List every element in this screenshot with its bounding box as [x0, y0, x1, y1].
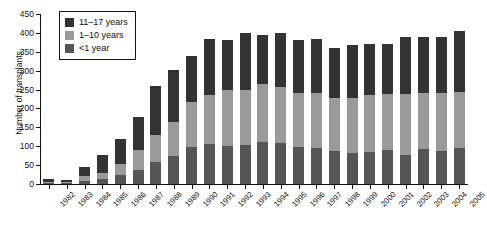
x-tick-label-1985: 1985 [111, 190, 130, 209]
bar-segment-1998-s2 [329, 48, 340, 98]
bar-segment-2000-s1 [364, 95, 375, 152]
bar-segment-2004-s1 [436, 93, 447, 150]
x-tick-label-1991: 1991 [218, 190, 237, 209]
bar-segment-1985-s1 [97, 173, 108, 179]
x-tick-label-1998: 1998 [343, 190, 362, 209]
x-tick-1990 [192, 185, 193, 189]
bar-segment-1991-s2 [204, 39, 215, 96]
legend-swatch-icon-11-17 [65, 18, 74, 27]
bar-segment-2005-s2 [454, 31, 465, 92]
bar-1984 [79, 167, 90, 184]
x-tick-label-1984: 1984 [94, 190, 113, 209]
bar-segment-1991-s0 [204, 144, 215, 184]
legend-item-under-1: <1 year [65, 42, 128, 55]
legend-item-11-17: 11–17 years [65, 16, 128, 29]
bar-1990 [186, 56, 197, 184]
x-axis-line [40, 184, 468, 185]
y-tick-label-150: 150 [20, 123, 34, 132]
x-tick-2000 [370, 185, 371, 189]
x-tick-2004 [441, 185, 442, 189]
y-tick-label-0: 0 [29, 180, 34, 189]
x-tick-2003 [423, 185, 424, 189]
x-tick-label-1993: 1993 [254, 190, 273, 209]
bar-segment-1986-s0 [115, 175, 126, 184]
bar-segment-1992-s0 [222, 146, 233, 184]
bar-segment-1989-s0 [168, 156, 179, 184]
bar-segment-1983-s1 [61, 182, 72, 183]
y-tick-label-250: 250 [20, 85, 34, 94]
x-tick-1996 [299, 185, 300, 189]
x-tick-label-1995: 1995 [290, 190, 309, 209]
bar-segment-1985-s0 [97, 179, 108, 184]
bar-2002 [400, 37, 411, 184]
bar-segment-1989-s2 [168, 70, 179, 122]
bar-1983 [61, 180, 72, 184]
y-tick-150 [36, 127, 40, 128]
bar-segment-1990-s0 [186, 147, 197, 184]
x-tick-label-1990: 1990 [201, 190, 220, 209]
bar-1985 [97, 155, 108, 184]
bar-segment-1986-s2 [115, 139, 126, 165]
bar-segment-1995-s1 [275, 87, 286, 144]
bar-segment-1987-s1 [133, 150, 144, 170]
legend-label-1-10: 1–10 years [79, 31, 124, 40]
x-tick-1992 [227, 185, 228, 189]
x-tick-2001 [388, 185, 389, 189]
x-tick-label-1994: 1994 [272, 190, 291, 209]
bar-segment-2003-s1 [418, 93, 429, 150]
bar-segment-1990-s1 [186, 102, 197, 147]
x-tick-2002 [406, 185, 407, 189]
bar-segment-1999-s1 [347, 98, 358, 153]
bar-segment-1994-s0 [257, 142, 268, 184]
bar-segment-1998-s0 [329, 151, 340, 184]
y-tick-label-350: 350 [20, 48, 34, 57]
bar-segment-2004-s0 [436, 151, 447, 184]
bar-segment-2002-s2 [400, 37, 411, 94]
x-tick-1999 [352, 185, 353, 189]
x-tick-2005 [459, 185, 460, 189]
x-tick-1983 [67, 185, 68, 189]
x-tick-1984 [85, 185, 86, 189]
bar-segment-2001-s1 [382, 94, 393, 150]
bar-segment-1985-s2 [97, 155, 108, 173]
bar-2001 [382, 44, 393, 184]
y-tick-50 [36, 165, 40, 166]
x-tick-1986 [120, 185, 121, 189]
x-tick-label-2002: 2002 [415, 190, 434, 209]
bar-segment-1996-s2 [293, 40, 304, 94]
legend-item-1-10: 1–10 years [65, 29, 128, 42]
bar-segment-1984-s1 [79, 176, 90, 181]
bar-segment-1997-s1 [311, 93, 322, 148]
bar-segment-2000-s2 [364, 44, 375, 95]
bar-2003 [418, 37, 429, 184]
bar-segment-1989-s1 [168, 122, 179, 156]
bar-1995 [275, 33, 286, 184]
bar-segment-1990-s2 [186, 56, 197, 102]
y-tick-200 [36, 108, 40, 109]
x-tick-1998 [334, 185, 335, 189]
x-tick-label-2005: 2005 [468, 190, 487, 209]
bar-segment-2001-s2 [382, 44, 393, 94]
x-tick-1991 [209, 185, 210, 189]
bar-segment-1992-s2 [222, 40, 233, 90]
x-tick-label-1988: 1988 [165, 190, 184, 209]
bar-segment-1999-s2 [347, 45, 358, 98]
bar-segment-2002-s1 [400, 94, 411, 154]
x-tick-1987 [138, 185, 139, 189]
x-tick-label-2001: 2001 [397, 190, 416, 209]
y-axis-line [40, 14, 41, 185]
bar-segment-2003-s2 [418, 37, 429, 93]
bar-segment-1995-s0 [275, 143, 286, 184]
bar-segment-1993-s1 [240, 90, 251, 146]
bar-segment-1996-s0 [293, 147, 304, 184]
bar-1998 [329, 48, 340, 184]
bar-segment-1986-s1 [115, 164, 126, 175]
x-tick-label-2004: 2004 [450, 190, 469, 209]
bar-1997 [311, 39, 322, 184]
chart-legend: 11–17 years 1–10 years <1 year [59, 11, 136, 60]
x-tick-1995 [281, 185, 282, 189]
bar-1992 [222, 40, 233, 184]
y-tick-label-450: 450 [20, 10, 34, 19]
x-tick-1997 [316, 185, 317, 189]
